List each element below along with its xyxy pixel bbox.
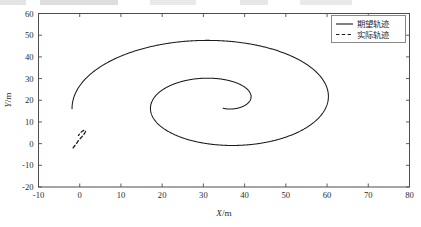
y-tick-label: 20 [25,95,34,105]
x-tick-label: 0 [78,190,82,200]
trajectory-plot: -1001020304050607080 -20-100102030405060… [0,0,421,227]
x-tick-label: 10 [117,190,126,200]
x-tick-label: 80 [405,190,414,200]
y-tick-label: 60 [25,9,34,19]
y-tick-label: -20 [22,182,33,192]
x-axis-title: X/m [215,208,231,218]
y-axis-title: Y/m [3,93,13,108]
legend-label-desired: 期望轨迹 [357,19,390,29]
x-tick-label: -10 [33,190,44,200]
y-tick-label: 40 [25,52,34,62]
y-axis-title-unit: /m [3,93,13,103]
y-axis-tick-labels: -20-100102030405060 [22,9,33,193]
x-tick-label: 30 [199,190,208,200]
y-tick-label: 0 [29,139,33,149]
x-tick-label: 60 [323,190,332,200]
legend: 期望轨迹 实际轨迹 [332,16,406,43]
x-tick-label: 20 [158,190,167,200]
y-tick-label: -10 [22,160,33,170]
x-tick-label: 40 [240,190,249,200]
x-axis-title-unit: /m [222,208,232,218]
x-axis-tick-labels: -1001020304050607080 [33,190,414,200]
legend-label-actual: 实际轨迹 [357,30,390,40]
x-tick-label: 70 [364,190,373,200]
y-tick-label: 30 [25,74,34,84]
y-tick-label: 10 [25,117,34,127]
y-tick-label: 50 [25,30,34,40]
x-tick-label: 50 [282,190,291,200]
chart-figure: -1001020304050607080 -20-100102030405060… [0,0,421,227]
